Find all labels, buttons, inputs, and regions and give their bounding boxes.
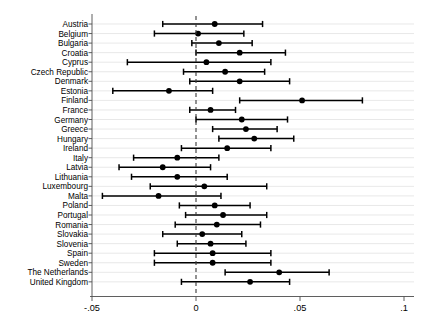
point-estimate-marker bbox=[251, 136, 257, 142]
point-estimates-group bbox=[156, 21, 305, 285]
point-estimate-marker bbox=[208, 107, 214, 113]
point-estimate-marker bbox=[224, 145, 230, 151]
point-estimate-marker bbox=[212, 21, 218, 27]
x-tick-label: -.05 bbox=[84, 303, 100, 313]
category-label: Cyprus bbox=[62, 58, 88, 67]
point-estimate-marker bbox=[208, 241, 214, 247]
x-tick-label: .05 bbox=[294, 303, 307, 313]
category-label: Spain bbox=[67, 249, 88, 258]
category-label: Ireland bbox=[63, 144, 88, 153]
point-estimate-marker bbox=[222, 69, 228, 75]
category-label: Belgium bbox=[58, 30, 88, 39]
point-estimate-marker bbox=[199, 231, 205, 237]
category-label: Estonia bbox=[61, 87, 89, 96]
point-estimate-marker bbox=[214, 222, 220, 228]
category-label: Malta bbox=[68, 192, 88, 201]
point-estimate-marker bbox=[216, 40, 222, 46]
category-label: Romania bbox=[55, 221, 88, 230]
category-label: Portugal bbox=[58, 211, 89, 220]
point-estimate-marker bbox=[204, 59, 210, 65]
category-label: Slovenia bbox=[57, 240, 89, 249]
point-estimate-marker bbox=[166, 88, 172, 94]
category-label: Austria bbox=[63, 20, 89, 29]
point-estimate-marker bbox=[243, 126, 249, 132]
category-label: Denmark bbox=[55, 77, 89, 86]
x-tick-labels-group: -.050.05.1 bbox=[84, 303, 408, 313]
point-estimate-marker bbox=[156, 193, 162, 199]
point-estimate-marker bbox=[160, 164, 166, 170]
category-label: Slovakia bbox=[57, 230, 88, 239]
point-estimate-marker bbox=[174, 174, 180, 180]
category-label: Germany bbox=[54, 116, 89, 125]
category-label: Finland bbox=[61, 96, 88, 105]
category-label: Greece bbox=[61, 125, 88, 134]
confidence-intervals-group bbox=[102, 21, 362, 285]
point-estimate-marker bbox=[210, 260, 216, 266]
category-label: Poland bbox=[63, 201, 89, 210]
point-estimate-marker bbox=[299, 98, 305, 104]
point-estimate-marker bbox=[239, 117, 245, 123]
point-estimate-marker bbox=[210, 250, 216, 256]
forest-plot: AustriaBelgiumBulgariaCroatiaCyprusCzech… bbox=[0, 0, 427, 329]
category-label: Lithuania bbox=[55, 173, 89, 182]
category-label: Italy bbox=[73, 154, 89, 163]
point-estimate-marker bbox=[237, 78, 243, 84]
point-estimate-marker bbox=[237, 50, 243, 56]
category-labels-group: AustriaBelgiumBulgariaCroatiaCyprusCzech… bbox=[27, 20, 92, 287]
category-label: Bulgaria bbox=[58, 39, 88, 48]
point-estimate-marker bbox=[247, 279, 253, 285]
point-estimate-marker bbox=[174, 155, 180, 161]
category-label: Luxembourg bbox=[42, 182, 88, 191]
point-estimate-marker bbox=[276, 269, 282, 275]
category-label: France bbox=[63, 106, 89, 115]
x-tick-label: 0 bbox=[193, 303, 198, 313]
point-estimate-marker bbox=[212, 203, 218, 209]
category-label: Croatia bbox=[62, 49, 89, 58]
category-label: Czech Republic bbox=[31, 68, 88, 77]
category-label: Latvia bbox=[66, 163, 88, 172]
x-tick-label: .1 bbox=[400, 303, 408, 313]
category-label: The Netherlands bbox=[27, 268, 88, 277]
point-estimate-marker bbox=[201, 183, 207, 189]
category-label: Hungary bbox=[57, 135, 89, 144]
category-label: Sweden bbox=[58, 259, 88, 268]
category-label: United Kingdom bbox=[30, 278, 88, 287]
point-estimate-marker bbox=[220, 212, 226, 218]
